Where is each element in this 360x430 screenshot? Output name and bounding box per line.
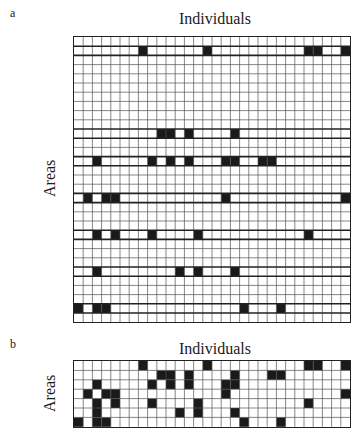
filled-cell: [111, 230, 120, 239]
filled-cell: [258, 157, 267, 166]
panel-b-ylabel: Areas: [41, 372, 59, 412]
filled-cell: [111, 399, 120, 408]
filled-cell: [92, 417, 101, 426]
filled-cell: [304, 230, 313, 239]
filled-cell: [102, 193, 111, 202]
filled-cell: [230, 370, 239, 379]
filled-cell: [111, 389, 120, 398]
occupancy-matrix: [74, 37, 350, 322]
filled-cell: [175, 408, 184, 417]
filled-cell: [102, 389, 111, 398]
filled-cell: [148, 380, 157, 389]
filled-cell: [92, 380, 101, 389]
filled-cell: [166, 370, 175, 379]
filled-cell: [313, 361, 322, 370]
filled-cell: [221, 389, 230, 398]
filled-cell: [148, 230, 157, 239]
filled-cell: [230, 129, 239, 138]
filled-cell: [267, 370, 276, 379]
filled-cell: [102, 304, 111, 313]
filled-cell: [92, 230, 101, 239]
filled-cell: [74, 304, 83, 313]
filled-cell: [166, 380, 175, 389]
filled-cell: [221, 193, 230, 202]
filled-cell: [203, 46, 212, 55]
filled-cell: [276, 304, 285, 313]
filled-cell: [341, 193, 350, 202]
panel-b-grid: [73, 360, 351, 428]
filled-cell: [83, 389, 92, 398]
filled-cell: [304, 399, 313, 408]
filled-cell: [304, 46, 313, 55]
filled-cell: [341, 389, 350, 398]
filled-cell: [276, 370, 285, 379]
filled-cell: [230, 157, 239, 166]
filled-cell: [166, 157, 175, 166]
filled-cell: [92, 157, 101, 166]
filled-cell: [341, 46, 350, 55]
filled-cell: [194, 267, 203, 276]
panel-a-title: Individuals: [150, 10, 280, 28]
filled-cell: [184, 129, 193, 138]
filled-cell: [148, 157, 157, 166]
filled-cell: [221, 380, 230, 389]
filled-cell: [138, 46, 147, 55]
filled-cell: [240, 417, 249, 426]
filled-cell: [148, 399, 157, 408]
filled-cell: [92, 408, 101, 417]
filled-cell: [184, 157, 193, 166]
filled-cell: [184, 370, 193, 379]
filled-cell: [166, 129, 175, 138]
filled-cell: [157, 370, 166, 379]
panel-b-label: b: [10, 337, 16, 352]
filled-cell: [221, 157, 230, 166]
filled-cell: [92, 304, 101, 313]
filled-cell: [230, 267, 239, 276]
panel-a-ylabel: Areas: [41, 157, 59, 197]
filled-cell: [230, 380, 239, 389]
filled-cell: [341, 361, 350, 370]
occupancy-matrix: [74, 361, 350, 427]
filled-cell: [194, 399, 203, 408]
panel-b-title: Individuals: [150, 340, 280, 358]
filled-cell: [92, 399, 101, 408]
filled-cell: [313, 46, 322, 55]
filled-cell: [175, 267, 184, 276]
filled-cell: [267, 157, 276, 166]
filled-cell: [92, 267, 101, 276]
filled-cell: [304, 361, 313, 370]
panel-a-label: a: [10, 6, 15, 21]
filled-cell: [74, 417, 83, 426]
filled-cell: [157, 129, 166, 138]
panel-a-grid: [73, 36, 351, 323]
filled-cell: [240, 304, 249, 313]
filled-cell: [194, 230, 203, 239]
filled-cell: [203, 361, 212, 370]
filled-cell: [111, 193, 120, 202]
filled-cell: [194, 408, 203, 417]
filled-cell: [102, 417, 111, 426]
filled-cell: [138, 361, 147, 370]
filled-cell: [230, 408, 239, 417]
filled-cell: [276, 417, 285, 426]
filled-cell: [184, 380, 193, 389]
filled-cell: [83, 193, 92, 202]
